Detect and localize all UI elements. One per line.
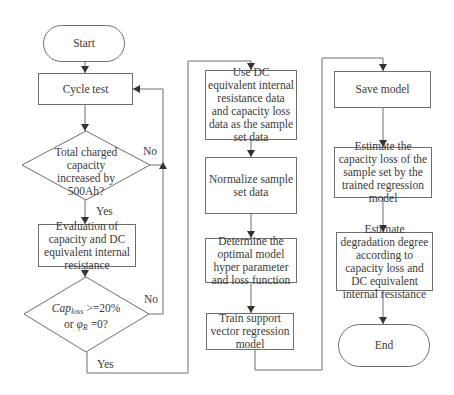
edge-label-no-1: No bbox=[143, 145, 157, 158]
normalize-label: Normalize sample set data bbox=[208, 173, 294, 199]
normalize-box: Normalize sample set data bbox=[205, 157, 297, 214]
determine-params-box: Determine the optimal model hyper parame… bbox=[205, 238, 297, 283]
edge-label-yes-2: Yes bbox=[97, 358, 114, 371]
phi-condition: =0? bbox=[88, 318, 108, 330]
cap-subscript: loss bbox=[71, 307, 83, 316]
or-text: or bbox=[64, 318, 76, 330]
determine-params-label: Determine the optimal model hyper parame… bbox=[208, 235, 294, 287]
use-dc-data-label: Use DC equivalent internal resistance da… bbox=[208, 66, 294, 144]
decision-cap-text: Caploss >=20% or φR =0? bbox=[44, 302, 128, 334]
flowchart-canvas: Start Cycle test Total charged capacity … bbox=[0, 0, 454, 395]
start-terminal: Start bbox=[43, 25, 125, 62]
edge-label-yes-1: Yes bbox=[96, 205, 113, 218]
end-label: End bbox=[375, 339, 394, 352]
edge-label-no-2: No bbox=[144, 293, 158, 306]
evaluation-label: Evaluation of capacity and DC equivalent… bbox=[41, 220, 133, 272]
evaluation-box: Evaluation of capacity and DC equivalent… bbox=[38, 224, 136, 267]
save-model-box: Save model bbox=[334, 71, 431, 108]
estimate-capacity-box: Estimate the capacity loss of the sample… bbox=[334, 147, 432, 198]
cycle-test-box: Cycle test bbox=[38, 73, 133, 105]
cycle-test-label: Cycle test bbox=[63, 83, 109, 96]
end-terminal: End bbox=[338, 324, 430, 367]
decision-charged-label: Total charged capacity increased by 500A… bbox=[55, 146, 118, 197]
cap-symbol: Cap bbox=[52, 302, 71, 314]
estimate-degradation-label: Estimate degradation degree according to… bbox=[339, 223, 430, 301]
start-label: Start bbox=[73, 37, 95, 50]
use-dc-data-box: Use DC equivalent internal resistance da… bbox=[205, 70, 297, 140]
train-svr-label: Train support vector regression model bbox=[209, 312, 291, 351]
save-model-label: Save model bbox=[356, 83, 410, 96]
train-svr-box: Train support vector regression model bbox=[206, 313, 294, 350]
decision-charged-text: Total charged capacity increased by 500A… bbox=[44, 146, 128, 198]
estimate-degradation-box: Estimate degradation degree according to… bbox=[336, 232, 433, 291]
estimate-capacity-label: Estimate the capacity loss of the sample… bbox=[337, 140, 429, 205]
cap-condition: >=20% bbox=[83, 302, 120, 314]
